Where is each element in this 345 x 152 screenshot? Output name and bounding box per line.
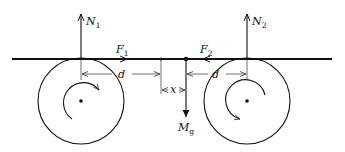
f1-label: F1 — [115, 43, 128, 58]
n1-label: N1 — [85, 15, 100, 30]
x-label: x — [170, 83, 177, 96]
f2-label: F2 — [199, 43, 213, 58]
right-roller-center — [245, 99, 249, 103]
roller-bar-diagram: N1 N2 F1 F2 Mg d d x — [0, 0, 345, 152]
mg-label: Mg — [177, 121, 194, 136]
d-right-label: d — [212, 68, 219, 81]
d-left-label: d — [118, 68, 125, 81]
right-rotation-arrow-icon — [226, 80, 265, 119]
left-roller-center — [79, 99, 83, 103]
n2-label: N2 — [251, 15, 267, 30]
